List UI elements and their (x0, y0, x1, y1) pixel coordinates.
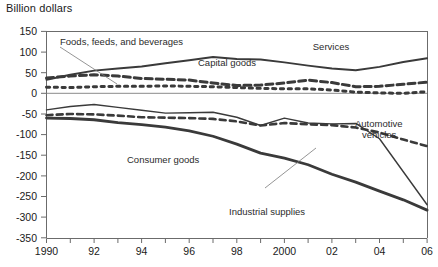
x-tick-label: 92 (88, 245, 100, 257)
y-tick-label: -200 (16, 170, 37, 182)
x-tick-label: 94 (136, 245, 148, 257)
y-tick-label: -300 (16, 211, 37, 223)
y-axis-tick-labels: 150 100 50 0 -50 -100 -150 -200 -250 -30… (16, 25, 37, 243)
x-tick-label: 96 (183, 245, 195, 257)
y-tick-label: 100 (19, 46, 37, 58)
y-tick-label: -100 (16, 128, 37, 140)
y-tick-label: -150 (16, 149, 37, 161)
series-line-capital-goods (47, 75, 428, 87)
series-annotation-consumer-goods: Consumer goods (127, 154, 200, 165)
chart-container: Billion dollars 150 100 (0, 0, 438, 267)
leader-industrial-supplies (265, 148, 316, 188)
x-tick-label: 2000 (273, 245, 297, 257)
y-axis-ticks (41, 31, 47, 237)
x-tick-label: 1990 (35, 245, 59, 257)
annotation-leaders (60, 47, 316, 188)
x-axis-ticks (47, 239, 428, 244)
x-tick-label: 02 (326, 245, 338, 257)
series-annotation-automotive-line1: Automotive (355, 118, 403, 129)
x-tick-label: 98 (231, 245, 243, 257)
series-annotation-industrial-supplies: Industrial supplies (229, 206, 305, 217)
series-annotation-foods-feeds-beverages: Foods, feeds, and beverages (60, 36, 183, 47)
y-tick-label: -350 (16, 232, 37, 244)
x-tick-label: 04 (374, 245, 386, 257)
series-annotation-services: Services (313, 41, 350, 52)
x-axis-tick-labels: 1990 92 94 96 98 2000 02 04 06 (35, 245, 433, 257)
y-tick-label: -50 (22, 108, 37, 120)
series-annotation-capital-goods: Capital goods (198, 57, 256, 68)
y-tick-label: 0 (31, 87, 37, 99)
leader-foods-feeds-beverages (60, 47, 117, 84)
x-tick-label: 06 (421, 245, 433, 257)
y-tick-label: 50 (25, 67, 37, 79)
y-tick-label: -250 (16, 190, 37, 202)
y-tick-label: 150 (19, 25, 37, 37)
line-chart-plot: 150 100 50 0 -50 -100 -150 -200 -250 -30… (0, 0, 438, 267)
series-annotation-automotive-line2: vehicles (362, 129, 397, 140)
